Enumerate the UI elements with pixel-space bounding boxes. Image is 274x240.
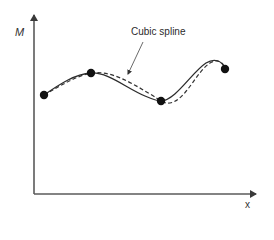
data-point — [221, 65, 229, 73]
data-point — [157, 97, 165, 105]
cubic-spline-curve — [44, 61, 225, 103]
y-axis-label: M — [15, 26, 24, 38]
data-point — [87, 69, 95, 77]
x-axis-label: x — [245, 199, 250, 210]
cubic-spline-annotation: Cubic spline — [131, 26, 185, 37]
interpolated-curve — [44, 60, 225, 101]
data-point — [40, 91, 48, 99]
annotation-pointer — [128, 42, 143, 74]
